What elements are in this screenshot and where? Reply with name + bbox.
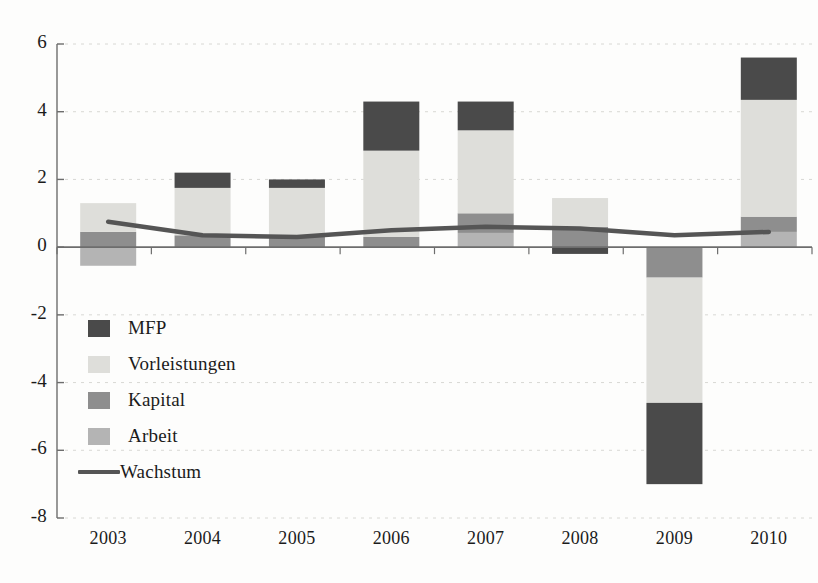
y-axis-tick-label: 2 — [0, 166, 47, 188]
legend-item[interactable]: MFP — [88, 310, 236, 346]
x-axis-tick-label: 2007 — [441, 528, 531, 549]
chart-legend: MFPVorleistungenKapitalArbeitWachstum — [88, 310, 236, 490]
y-axis-tick-label: -8 — [0, 505, 47, 527]
y-axis-tick-label: -6 — [0, 437, 47, 459]
legend-item[interactable]: Vorleistungen — [88, 346, 236, 382]
legend-item-label: Vorleistungen — [128, 353, 236, 375]
legend-item-label: Kapital — [128, 389, 185, 411]
x-axis-tick-label: 2006 — [346, 528, 436, 549]
legend-item[interactable]: Wachstum — [88, 454, 236, 490]
legend-color-swatch — [88, 392, 110, 409]
x-axis-tick-label: 2010 — [724, 528, 814, 549]
legend-color-swatch — [88, 428, 110, 445]
legend-item-label: Wachstum — [120, 461, 201, 483]
y-axis-tick-label: -4 — [0, 370, 47, 392]
legend-color-swatch — [88, 356, 110, 373]
legend-item[interactable]: Arbeit — [88, 418, 236, 454]
x-axis-tick-label: 2009 — [629, 528, 719, 549]
legend-item[interactable]: Kapital — [88, 382, 236, 418]
chart-container: 6420-2-4-6-8 200320042005200620072008200… — [0, 0, 818, 583]
x-axis-tick-label: 2003 — [63, 528, 153, 549]
x-axis-tick-label: 2005 — [252, 528, 342, 549]
legend-color-swatch — [88, 320, 110, 337]
legend-item-label: MFP — [128, 317, 167, 339]
x-axis-tick-label: 2004 — [158, 528, 248, 549]
y-axis-tick-label: -2 — [0, 302, 47, 324]
legend-item-label: Arbeit — [128, 425, 178, 447]
y-axis-tick-label: 0 — [0, 234, 47, 256]
y-axis-tick-label: 4 — [0, 99, 47, 121]
legend-line-marker — [78, 470, 120, 474]
y-axis-tick-label: 6 — [0, 31, 47, 53]
chart-plot-area — [0, 0, 818, 583]
x-axis-tick-label: 2008 — [535, 528, 625, 549]
